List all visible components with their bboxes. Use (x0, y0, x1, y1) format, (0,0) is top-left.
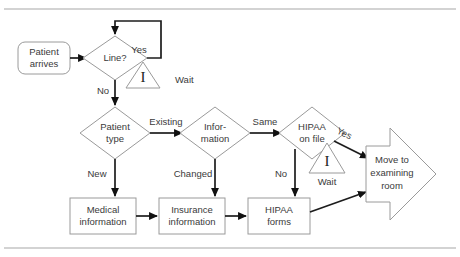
edge-label-information-changed: Changed (174, 168, 213, 179)
edge-label-line-no: No (97, 85, 109, 96)
node-move-to-examining-room-line3: room (381, 180, 403, 191)
node-patient-type-line1: Patient (100, 121, 130, 132)
node-wait-hipaa-label: Wait (318, 176, 337, 187)
node-hipaa-on-file-line1: HIPAA (298, 121, 326, 132)
edge-label-hipaa-no: No (275, 168, 287, 179)
node-move-to-examining-room-line2: examining (370, 167, 413, 178)
edge-label-type-new: New (87, 168, 106, 179)
node-patient-arrives-line2: arrives (30, 58, 59, 69)
node-information-line2: mation (201, 133, 230, 144)
wait-hipaa-hourglass-icon: I (325, 153, 330, 169)
node-medical-information-line2: information (80, 216, 127, 227)
edge-label-line-yes: Yes (131, 44, 147, 55)
edge-hipaa-forms-to-exam (310, 192, 366, 212)
flowchart-figure: Patient arrives Line? Yes I Wait No Pati… (0, 0, 460, 257)
node-hipaa-on-file-line2: on file (299, 133, 324, 144)
node-move-to-examining-room-line1: Move to (375, 154, 409, 165)
node-information-line1: Infor- (204, 121, 226, 132)
node-line-decision-label: Line? (103, 52, 126, 63)
node-insurance-information-line2: information (169, 216, 216, 227)
node-patient-arrives-line1: Patient (29, 46, 59, 57)
node-hipaa-forms-line1: HIPAA (265, 204, 293, 215)
node-hipaa-forms-line2: forms (267, 216, 291, 227)
edge-label-information-same: Same (253, 116, 278, 127)
node-wait-line-label: Wait (175, 74, 194, 85)
edge-label-type-existing: Existing (149, 116, 182, 127)
node-patient-type-line2: type (106, 133, 124, 144)
edge-hipaa-yes (334, 141, 368, 158)
wait-line-hourglass-icon: I (141, 69, 146, 85)
node-medical-information-line1: Medical (87, 204, 120, 215)
flowchart-canvas: Patient arrives Line? Yes I Wait No Pati… (0, 0, 460, 257)
node-insurance-information-line1: Insurance (171, 204, 213, 215)
